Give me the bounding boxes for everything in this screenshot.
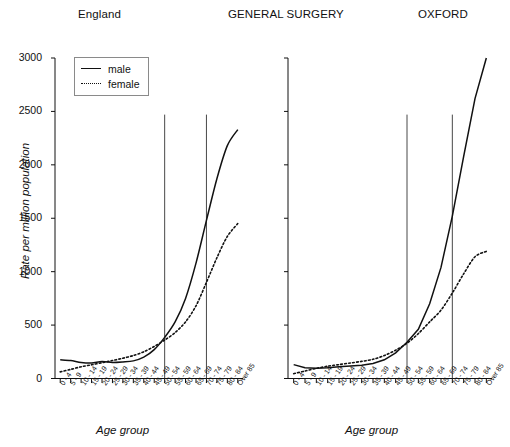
axis-spines [288,58,492,379]
panel-title-right: OXFORD [418,8,468,20]
solid-line-icon [80,64,102,74]
x-axis-label-oxford: Age group [345,424,398,436]
legend-label-female: female [108,78,140,90]
y-tick-label: 1000 [8,265,42,277]
y-tick-label: 2000 [8,158,42,170]
figure-main-title: GENERAL SURGERY [228,8,344,20]
legend: male female [74,57,149,96]
series-line-male [60,130,238,363]
figure: England GENERAL SURGERY OXFORD Rate per … [0,0,510,447]
panel-england [51,58,243,383]
dotted-line-icon [80,79,102,89]
legend-item-female: female [80,76,140,91]
y-tick-label: 3000 [8,51,42,63]
figure-title-row: England GENERAL SURGERY OXFORD [0,8,510,28]
panel-oxford [284,58,492,383]
legend-item-male: male [80,61,140,76]
y-tick-label: 1500 [8,211,42,223]
x-axis-label-england: Age group [96,424,149,436]
series-line-male [294,58,487,368]
axis-spines [55,58,243,379]
panel-title-left: England [78,8,121,20]
legend-label-male: male [108,63,131,75]
y-tick-label: 500 [8,318,42,330]
series-line-female [294,251,487,373]
y-tick-label: 0 [8,372,42,384]
y-tick-label: 2500 [8,104,42,116]
series-line-female [60,224,238,372]
